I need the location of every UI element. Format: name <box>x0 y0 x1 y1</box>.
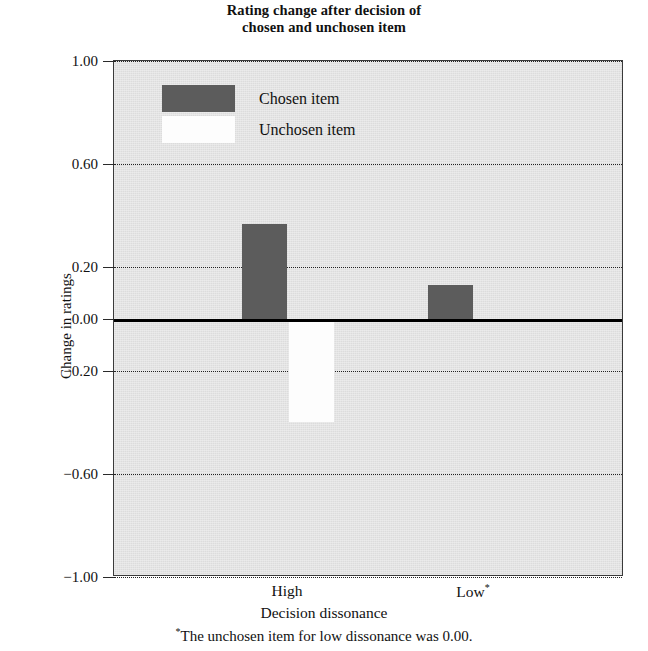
figure-root: Rating change after decision of chosen a… <box>0 0 648 651</box>
footnote-text: The unchosen item for low dissonance was… <box>180 628 472 644</box>
y-tick-label: −1.00 <box>63 569 98 586</box>
y-tick-label: 0.00 <box>72 311 98 328</box>
x-tick-label-low: Low* <box>456 582 489 601</box>
legend-label-unchosen: Unchosen item <box>259 121 355 139</box>
y-axis-tick <box>103 267 114 268</box>
plot-area: 1.000.600.200.00−0.20−0.60−1.00 Chosen i… <box>113 60 623 576</box>
legend-label-chosen: Chosen item <box>259 90 339 108</box>
x-tick-text-low: Low <box>456 583 484 600</box>
bar-low-chosen <box>428 285 473 319</box>
legend-swatch-chosen-icon <box>162 85 235 112</box>
bar-high-unchosen <box>289 319 334 422</box>
gridline <box>114 371 622 372</box>
chart-title-line-2: chosen and unchosen item <box>0 19 648 36</box>
y-axis-tick <box>103 319 114 320</box>
x-tick-asterisk-low: * <box>485 582 490 593</box>
y-axis-tick <box>103 371 114 372</box>
y-axis-tick <box>103 474 114 475</box>
x-tick-text-high: High <box>272 582 303 599</box>
legend-item-unchosen: Unchosen item <box>162 114 355 145</box>
y-axis-tick <box>103 577 114 578</box>
gridline <box>114 61 622 62</box>
zero-baseline <box>114 319 622 322</box>
y-axis-tick <box>103 164 114 165</box>
chart-title-line-1: Rating change after decision of <box>227 2 422 18</box>
legend-swatch-unchosen-icon <box>162 116 235 143</box>
y-axis-tick <box>103 61 114 62</box>
gridline <box>114 267 622 268</box>
legend: Chosen item Unchosen item <box>162 83 355 145</box>
gridline <box>114 474 622 475</box>
y-tick-label: 0.20 <box>72 259 98 276</box>
gridline <box>114 164 622 165</box>
y-tick-label: −0.60 <box>63 465 98 482</box>
y-tick-label: 1.00 <box>72 53 98 70</box>
chart-title: Rating change after decision of chosen a… <box>0 2 648 36</box>
legend-item-chosen: Chosen item <box>162 83 355 114</box>
y-tick-label: −0.20 <box>63 362 98 379</box>
bar-high-chosen <box>242 224 287 319</box>
y-tick-label: 0.60 <box>72 156 98 173</box>
x-axis-title: Decision dissonance <box>0 604 648 622</box>
chart-footnote: *The unchosen item for low dissonance wa… <box>0 626 648 645</box>
x-tick-label-high: High <box>272 582 303 600</box>
gridline <box>114 577 622 578</box>
